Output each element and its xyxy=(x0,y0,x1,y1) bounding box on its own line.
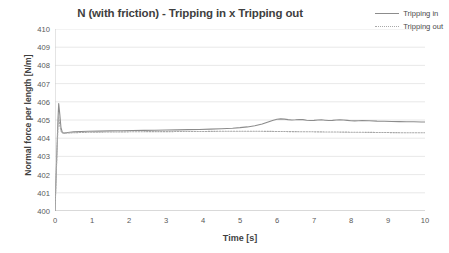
x-tick-label: 6 xyxy=(275,216,279,225)
x-tick-label: 5 xyxy=(238,216,242,225)
x-tick-label: 9 xyxy=(386,216,390,225)
x-tick-label: 3 xyxy=(164,216,168,225)
x-tick-label: 1 xyxy=(90,216,94,225)
x-tick-label: 7 xyxy=(312,216,316,225)
x-tick-label: 2 xyxy=(127,216,131,225)
plot-svg xyxy=(55,29,425,211)
x-tick-label: 10 xyxy=(421,216,429,225)
plot-area xyxy=(55,29,425,211)
chart-container: N (with friction) - Tripping in x Trippi… xyxy=(0,0,449,253)
x-tick-label: 0 xyxy=(53,216,57,225)
x-tick-label: 4 xyxy=(201,216,205,225)
x-tick-label: 8 xyxy=(349,216,353,225)
